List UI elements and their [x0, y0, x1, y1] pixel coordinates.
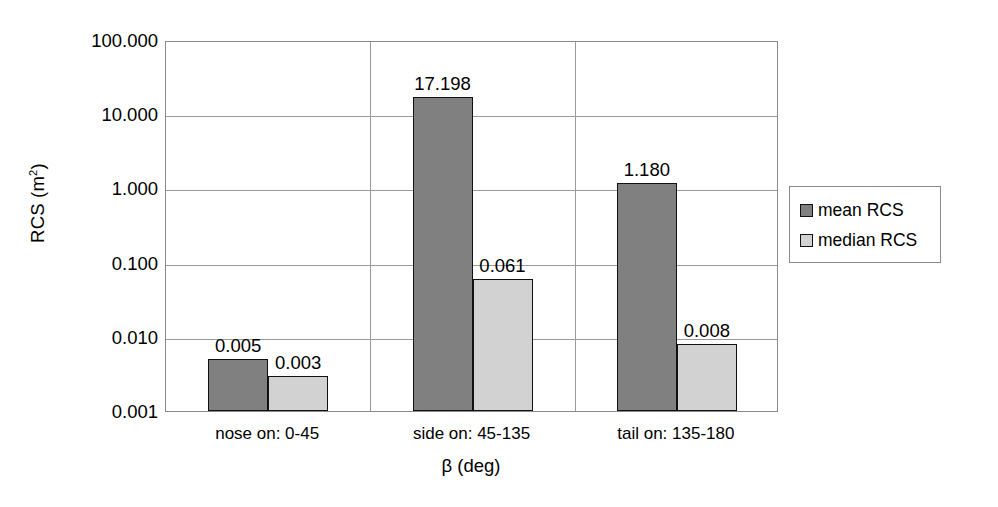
- y-axis-tick-label: 10.000: [38, 106, 158, 125]
- legend-item-median[interactable]: median RCS: [800, 230, 932, 251]
- y-axis-tick-label: 100.000: [38, 32, 158, 51]
- x-axis-title: β (deg): [442, 455, 501, 477]
- legend-item-label: mean RCS: [818, 200, 904, 221]
- plot-area: 0.0050.00317.1980.0611.1800.008: [165, 41, 778, 412]
- y-axis-tick-labels: 100.00010.0001.0000.1000.0100.001: [38, 0, 158, 507]
- category-separator-gridline: [370, 42, 371, 411]
- bar-value-label: 0.008: [684, 322, 730, 341]
- y-axis-tick-label: 1.000: [38, 180, 158, 199]
- bar-median: [473, 279, 533, 411]
- bar-median: [268, 376, 328, 411]
- bar-mean: [208, 359, 268, 411]
- bar-median: [677, 344, 737, 411]
- category-separator-gridline: [575, 42, 576, 411]
- legend-item-mean[interactable]: mean RCS: [800, 200, 932, 221]
- legend-item-label: median RCS: [818, 230, 917, 251]
- chart-legend: mean RCSmedian RCS: [789, 186, 941, 263]
- x-axis-category-label: nose on: 0-45: [215, 424, 319, 444]
- bar-value-label: 0.061: [479, 257, 525, 276]
- bar-value-label: 0.003: [275, 354, 321, 373]
- bar-value-label: 17.198: [414, 75, 471, 94]
- x-axis-category-label: tail on: 135-180: [617, 424, 734, 444]
- rcs-bar-chart: RCS (m2) 100.00010.0001.0000.1000.0100.0…: [0, 0, 998, 507]
- legend-swatch-icon: [800, 234, 813, 247]
- bar-value-label: 0.005: [215, 337, 261, 356]
- y-axis-tick-label: 0.001: [38, 403, 158, 422]
- bar-mean: [617, 183, 677, 411]
- bar-value-label: 1.180: [624, 161, 670, 180]
- legend-swatch-icon: [800, 204, 813, 217]
- x-axis-category-label: side on: 45-135: [413, 424, 530, 444]
- bar-mean: [413, 97, 473, 411]
- y-axis-tick-label: 0.100: [38, 254, 158, 273]
- y-axis-tick-label: 0.010: [38, 329, 158, 348]
